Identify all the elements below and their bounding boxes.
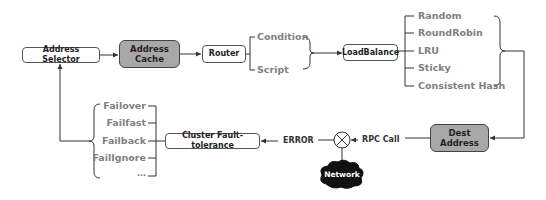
address-selector-label: Address Selector — [23, 45, 99, 65]
router-node: Router — [202, 45, 246, 63]
address-cache-label: Address Cache — [130, 44, 169, 64]
ft-option-failover: Failover — [103, 100, 146, 111]
loadbalance-label: LoadBalance — [342, 48, 399, 58]
dubbo-invocation-diagram: Address Selector Address Cache Router Co… — [0, 0, 546, 200]
router-option-condition: Condition — [257, 31, 308, 42]
dest-address-label: Dest Address — [440, 128, 479, 148]
rpc-call-label: RPC Call — [362, 134, 399, 145]
lb-option-consistent-hash: Consistent Hash — [418, 80, 505, 91]
router-option-script: Script — [257, 64, 289, 75]
ft-option-failback: Failback — [102, 135, 146, 146]
loadbalance-node: LoadBalance — [343, 44, 398, 61]
dest-address-node: Dest Address — [430, 124, 489, 152]
cluster-fault-tolerance-node: Cluster Fault-tolerance — [165, 133, 260, 149]
address-cache-node: Address Cache — [119, 40, 180, 68]
lb-option-sticky: Sticky — [418, 62, 451, 73]
network-label: Network — [322, 170, 362, 179]
lb-option-random: Random — [418, 10, 462, 21]
ft-option-failignore: FailIgnore — [92, 152, 146, 163]
lb-option-lru: LRU — [418, 45, 439, 56]
ft-option-failfast: Failfast — [106, 117, 146, 128]
router-label: Router — [209, 49, 240, 59]
error-label: ERROR — [283, 135, 314, 146]
lb-option-roundrobin: RoundRobin — [418, 27, 483, 38]
ft-option-more: ... — [137, 168, 146, 179]
address-selector-node: Address Selector — [22, 47, 100, 63]
circle-x-junction-icon — [334, 132, 350, 148]
cluster-fault-tolerance-label: Cluster Fault-tolerance — [166, 131, 259, 151]
